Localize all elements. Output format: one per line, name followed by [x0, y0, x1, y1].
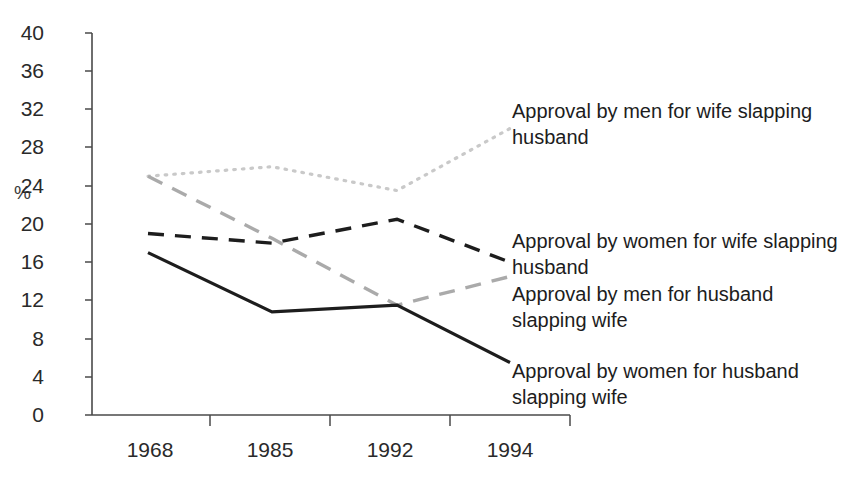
series-line-men-wife-slapping-husband [148, 129, 510, 191]
legend-label-women-husband-slapping-wife: Approval by women for husband slapping w… [512, 358, 799, 410]
x-tick-marks [210, 415, 570, 426]
legend-label-women-wife-slapping-husband: Approval by women for wife slapping husb… [512, 228, 838, 280]
series-line-women-wife-slapping-husband [148, 219, 510, 262]
legend-label-men-husband-slapping-wife: Approval by men for husband slapping wif… [512, 281, 773, 333]
y-tick-marks [85, 33, 92, 415]
legend-label-men-wife-slapping-husband: Approval by men for wife slapping husban… [512, 98, 812, 150]
series-line-men-husband-slapping-wife [148, 176, 510, 305]
line-chart: % 40 36 32 28 24 20 16 12 8 4 0 1968 198… [0, 0, 868, 483]
